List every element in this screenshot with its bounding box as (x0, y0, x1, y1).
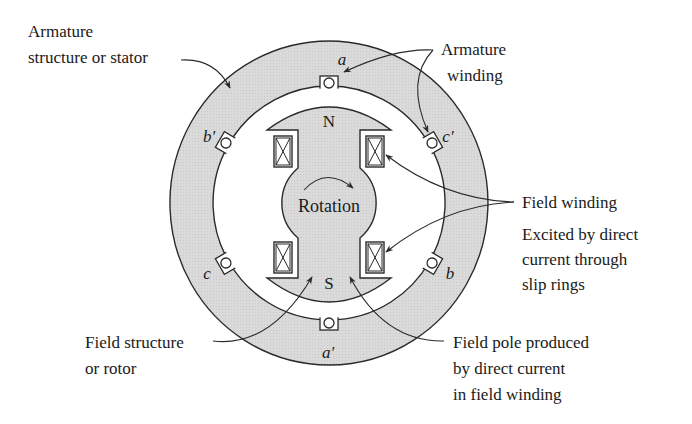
rotor: N S Rotation (267, 107, 391, 302)
rotation-label: Rotation (298, 196, 360, 216)
armature-slot-a (320, 76, 338, 90)
field-coil-top-left (274, 136, 292, 167)
north-pole-label: N (323, 112, 335, 131)
stator-annotation: Armature structure or stator (28, 22, 148, 67)
svg-text:in field winding: in field winding (453, 385, 562, 404)
svg-text:Armature: Armature (441, 40, 506, 59)
field-winding-annotation: Field winding (522, 193, 617, 212)
south-pole-label: S (324, 274, 333, 293)
slot-label-c: c (203, 264, 211, 283)
armature-winding-annotation: Armature winding (441, 40, 506, 85)
rotor-annotation: Field structure or rotor (85, 333, 184, 378)
field-coil-top-right (366, 136, 384, 167)
armature-slot-a_prime (320, 316, 338, 330)
svg-text:Armature: Armature (28, 22, 93, 41)
slot-label-b: b (446, 264, 455, 283)
slot-label-b-prime: b′ (203, 127, 216, 146)
field-coil-bottom-left (274, 242, 292, 273)
slot-label-c-prime: c′ (442, 127, 454, 146)
svg-text:Field structure: Field structure (85, 333, 184, 352)
slot-label-a-prime: a′ (322, 343, 335, 362)
svg-text:Excited by direct: Excited by direct (522, 225, 638, 244)
armature-conductor-a (324, 78, 334, 88)
svg-text:by direct current: by direct current (453, 359, 566, 378)
armature-conductor-a_prime (324, 318, 334, 328)
slot-label-a: a (338, 50, 347, 69)
svg-text:current through: current through (522, 250, 628, 269)
field-coil-bottom-right (366, 242, 384, 273)
excitation-annotation: Excited by direct current through slip r… (522, 225, 638, 294)
svg-text:or rotor: or rotor (85, 359, 137, 378)
svg-text:structure or stator: structure or stator (28, 48, 148, 67)
machine-diagram: N S Rotation a c′ b a′ c b′ Armature str… (0, 0, 692, 424)
svg-text:Field pole produced: Field pole produced (453, 333, 589, 352)
svg-text:Field winding: Field winding (522, 193, 617, 212)
svg-text:winding: winding (447, 66, 503, 85)
svg-text:slip rings: slip rings (522, 275, 585, 294)
field-pole-annotation: Field pole produced by direct current in… (453, 333, 589, 404)
